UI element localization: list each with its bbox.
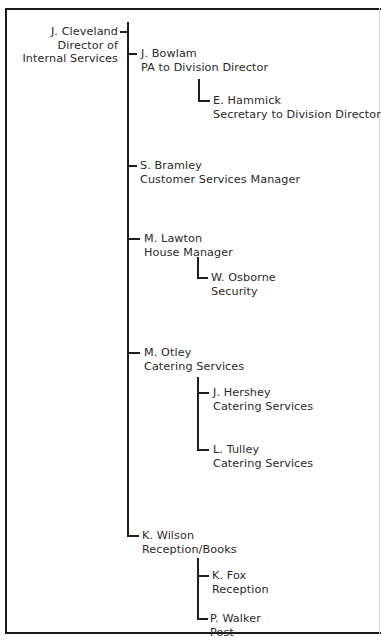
bowlam-sub-trunk — [198, 79, 200, 102]
node-role: Internal Services — [22, 52, 118, 66]
node-role: Reception — [212, 583, 269, 597]
node-root: J. Cleveland Director of Internal Servic… — [22, 25, 118, 66]
otley-sub-trunk — [197, 377, 199, 451]
node-name: S. Bramley — [140, 159, 300, 173]
node-hammick: E. Hammick Secretary to Division Directo… — [213, 94, 381, 121]
node-role: Director of — [22, 39, 118, 53]
node-fox: K. Fox Reception — [212, 569, 269, 596]
hammick-tick-line — [198, 100, 210, 102]
otley-tick-line — [128, 352, 140, 354]
node-role: Catering Services — [144, 360, 244, 374]
node-name: J. Hershey — [213, 386, 313, 400]
node-role: Catering Services — [213, 400, 313, 414]
node-hershey: J. Hershey Catering Services — [213, 386, 313, 413]
node-name: E. Hammick — [213, 94, 381, 108]
walker-tick-line — [197, 618, 208, 620]
node-role: Reception/Books — [142, 543, 237, 557]
node-tulley: L. Tulley Catering Services — [213, 443, 313, 470]
node-osborne: W. Osborne Security — [211, 271, 276, 298]
node-otley: M. Otley Catering Services — [144, 346, 244, 373]
hershey-tick-line — [197, 392, 209, 394]
node-name: J. Bowlam — [141, 47, 268, 61]
node-bowlam: J. Bowlam PA to Division Director — [141, 47, 268, 74]
bramley-tick-line — [128, 165, 137, 167]
node-walker: P. Walker Post — [210, 612, 261, 639]
bowlam-tick-line — [128, 53, 137, 55]
node-name: J. Cleveland — [22, 25, 118, 39]
node-role: Customer Services Manager — [140, 173, 300, 187]
fox-tick-line — [197, 575, 209, 577]
node-role: Catering Services — [213, 457, 313, 471]
tulley-tick-line — [197, 449, 209, 451]
node-wilson: K. Wilson Reception/Books — [142, 529, 237, 556]
node-bramley: S. Bramley Customer Services Manager — [140, 159, 300, 186]
node-name: M. Lawton — [144, 232, 233, 246]
lawton-tick-line — [128, 238, 140, 240]
osborne-tick-line — [197, 277, 208, 279]
main-trunk-line — [127, 22, 129, 536]
node-role: PA to Division Director — [141, 61, 268, 75]
node-role: Secretary to Division Director — [213, 108, 381, 122]
wilson-sub-trunk — [197, 558, 199, 620]
node-role: House Manager — [144, 246, 233, 260]
node-role: Security — [211, 285, 276, 299]
node-lawton: M. Lawton House Manager — [144, 232, 233, 259]
root-tick-line — [120, 31, 128, 33]
node-name: K. Wilson — [142, 529, 237, 543]
node-name: P. Walker — [210, 612, 261, 626]
node-name: K. Fox — [212, 569, 269, 583]
node-name: W. Osborne — [211, 271, 276, 285]
node-name: L. Tulley — [213, 443, 313, 457]
node-role: Post — [210, 626, 261, 640]
node-name: M. Otley — [144, 346, 244, 360]
lawton-sub-trunk — [197, 257, 199, 279]
wilson-tick-line — [127, 535, 139, 537]
